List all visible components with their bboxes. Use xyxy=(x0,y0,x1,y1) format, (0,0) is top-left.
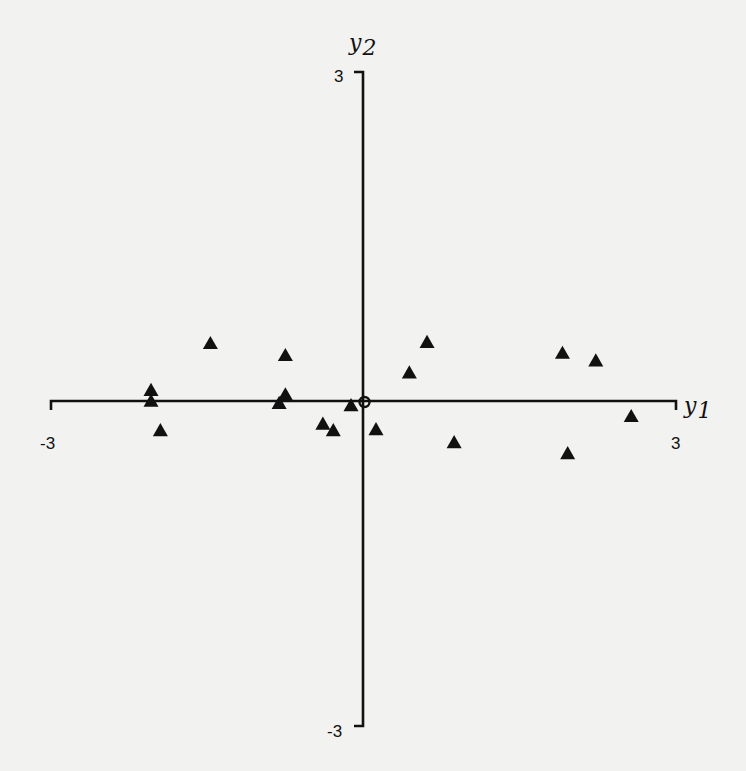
x-axis-title: y1 xyxy=(683,393,711,423)
triangle-marker xyxy=(369,422,384,435)
data-markers xyxy=(144,335,639,459)
y-tick-label-min: -3 xyxy=(327,722,342,741)
triangle-marker xyxy=(447,435,462,448)
y-tick-label-max: 3 xyxy=(334,67,343,86)
triangle-marker xyxy=(624,409,639,422)
triangle-marker xyxy=(560,446,575,459)
triangle-marker xyxy=(420,335,435,348)
x-tick-label-min: -3 xyxy=(40,434,55,453)
y-axis-title: y2 xyxy=(348,30,376,60)
triangle-marker xyxy=(402,365,417,378)
scatter-plot: -3 3 3 -3 y2 y1 xyxy=(0,0,746,771)
triangle-marker xyxy=(153,423,168,436)
x-tick-label-max: 3 xyxy=(671,434,680,453)
triangle-marker xyxy=(278,348,293,361)
triangle-marker xyxy=(588,353,603,366)
triangle-marker xyxy=(555,346,570,359)
triangle-marker xyxy=(203,336,218,349)
triangle-marker xyxy=(315,417,330,430)
